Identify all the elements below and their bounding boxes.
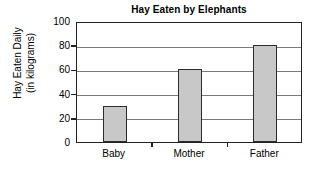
x-axis-tick-mark [151, 143, 153, 147]
y-axis-tick-label: 80 [42, 41, 70, 51]
chart-title: Hay Eaten by Elephants [76, 4, 302, 16]
x-axis-tick-label: Mother [151, 148, 226, 160]
y-axis-tick-label: 40 [42, 90, 70, 100]
bar-chart: Hay Eaten by Elephants Hay Eaten Daily (… [0, 0, 313, 169]
y-axis-tick-mark [71, 94, 76, 96]
y-axis-tick-label: 60 [42, 65, 70, 75]
y-axis-tick-mark [71, 70, 76, 72]
x-axis-tick-label: Father [227, 148, 302, 160]
y-axis-title: Hay Eaten Daily (in kilograms) [7, 3, 41, 123]
plot-area [76, 22, 302, 143]
x-axis-tick-label: Baby [76, 148, 151, 160]
y-axis-tick-label: 100 [42, 17, 70, 27]
bar-baby [103, 106, 127, 142]
y-axis-tick-label: 20 [42, 114, 70, 124]
y-axis-title-line-2: (in kilograms) [24, 33, 37, 93]
bar-mother [178, 69, 202, 142]
y-axis-tick-mark [71, 45, 76, 47]
x-axis-tick-mark [227, 143, 229, 147]
y-axis-tick-mark [71, 118, 76, 120]
y-axis-title-line-1: Hay Eaten Daily [11, 27, 24, 99]
bar-father [253, 45, 277, 142]
y-axis-tick-label: 0 [42, 138, 70, 148]
